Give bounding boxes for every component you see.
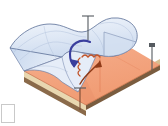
block-diagram (0, 0, 168, 126)
right-axis-marker-cap (149, 43, 155, 47)
figure-root (0, 0, 168, 126)
image-placeholder (1, 104, 15, 123)
